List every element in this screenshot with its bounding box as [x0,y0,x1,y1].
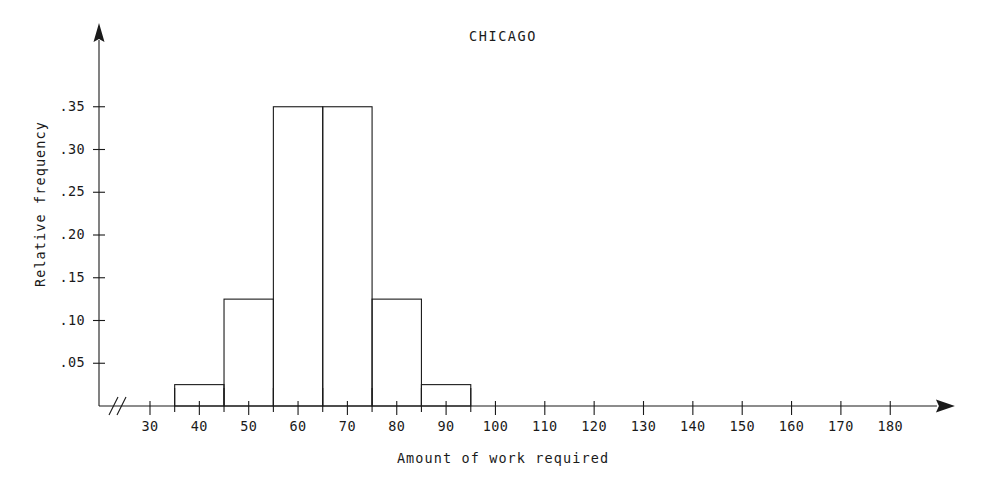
y-axis-arrow-icon [94,23,105,42]
y-tick-label: .25 [37,183,85,199]
histogram-bar [224,299,273,406]
x-tick-label: 40 [176,418,222,434]
x-tick-label: 70 [324,418,370,434]
y-tick-label: .30 [37,141,85,157]
x-tick-label: 180 [867,418,913,434]
x-tick-label: 130 [621,418,667,434]
x-axis-arrow-icon [936,400,955,413]
plot-area [0,0,1006,481]
y-tick-label: .15 [37,269,85,285]
histogram-bar [273,107,322,406]
x-tick-label: 60 [275,418,321,434]
y-tick-label: .35 [37,98,85,114]
bar-rect [372,299,421,406]
histogram-bar [323,107,372,406]
x-tick-label: 50 [226,418,272,434]
x-tick-label: 100 [472,418,518,434]
histogram-figure: CHICAGO Relative frequency Amount of wor… [0,0,1006,481]
x-tick-label: 140 [670,418,716,434]
x-tick-label: 30 [127,418,173,434]
axes-group [94,23,955,413]
x-tick-label: 110 [522,418,568,434]
x-tick-label: 80 [374,418,420,434]
x-tick-label: 150 [719,418,765,434]
y-tick-label: .20 [37,226,85,242]
y-tick-label: .05 [37,354,85,370]
bar-rect [273,107,322,406]
y-tick-label: .10 [37,312,85,328]
bar-rect [224,299,273,406]
x-tick-label: 160 [769,418,815,434]
bar-rect [323,107,372,406]
x-tick-label: 120 [571,418,617,434]
x-tick-label: 170 [818,418,864,434]
x-tick-label: 90 [423,418,469,434]
histogram-bar [372,299,421,406]
histogram-bars [175,107,471,406]
ticks-group [93,107,890,415]
